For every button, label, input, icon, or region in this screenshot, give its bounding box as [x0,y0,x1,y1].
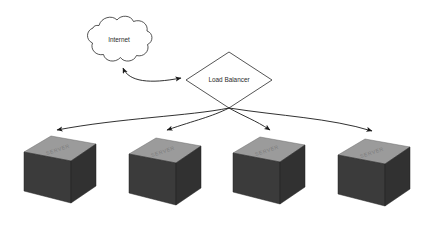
internet-cloud-node[interactable]: Internet [87,16,151,61]
server-node-1[interactable]: SERVER [24,136,96,203]
connector-lb-server-2 [167,108,229,130]
server-node-2[interactable]: SERVER [129,138,201,205]
connector-lb-server-4 [229,108,372,131]
server-node-4[interactable]: SERVER [338,139,410,206]
diagram-canvas: Internet Load Balancer SERVER SERVER [0,0,434,236]
server-front-face [129,154,176,205]
server-node-3[interactable]: SERVER [233,137,305,204]
connector-internet-loadbalancer [123,68,181,81]
server-front-face [24,152,71,203]
network-topology-diagram: Internet Load Balancer SERVER SERVER [0,0,434,236]
load-balancer-node[interactable]: Load Balancer [186,52,272,108]
load-balancer-label: Load Balancer [208,76,250,83]
server-front-face [233,153,280,204]
cloud-label: Internet [108,36,130,43]
server-front-face [338,155,385,206]
connector-lb-server-1 [57,108,229,130]
